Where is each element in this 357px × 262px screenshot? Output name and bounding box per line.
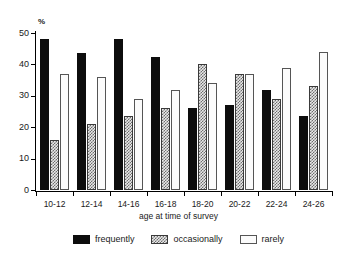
bar-group: [147, 33, 184, 190]
bar-occasionally: [50, 140, 59, 190]
plot-area: [36, 33, 332, 190]
y-axis-tick-label: 0: [3, 186, 29, 195]
bar-group: [73, 33, 110, 190]
x-axis-tick: [110, 192, 111, 196]
bar-rarely: [60, 74, 69, 190]
x-axis-tick-label: 22-24: [257, 199, 297, 209]
y-axis-labels: 01020304050: [0, 0, 29, 262]
x-axis-tick: [36, 192, 37, 196]
x-axis-tick-label: 24-26: [294, 199, 334, 209]
x-axis-tick: [221, 192, 222, 196]
y-axis-unit-label: %: [38, 18, 45, 26]
bar-occasionally: [309, 86, 318, 190]
x-axis-tick: [73, 192, 74, 196]
legend-label: occasionally: [173, 234, 222, 244]
bar-group: [110, 33, 147, 190]
bar-frequently: [188, 108, 197, 190]
y-axis-tick-label: 30: [3, 91, 29, 100]
y-axis-tick: [31, 190, 36, 191]
x-axis-tick-label: 20-22: [220, 199, 260, 209]
bar-rarely: [245, 74, 254, 190]
bar-rarely: [134, 99, 143, 190]
bar-occasionally: [161, 108, 170, 190]
x-axis-tick-label: 10-12: [35, 199, 75, 209]
x-axis-tick: [147, 192, 148, 196]
bar-frequently: [299, 116, 308, 190]
bar-frequently: [151, 57, 160, 190]
bar-group: [258, 33, 295, 190]
bar-occasionally: [272, 99, 281, 190]
y-axis-tick-label: 50: [3, 29, 29, 38]
bar-group: [36, 33, 73, 190]
legend-swatch-frequently: [73, 235, 90, 244]
legend-swatch-rarely: [240, 235, 257, 244]
legend-label: rarely: [262, 234, 285, 244]
x-axis-tick-label: 16-18: [146, 199, 186, 209]
x-axis-tick: [184, 192, 185, 196]
bar-occasionally: [87, 124, 96, 190]
bar-rarely: [97, 77, 106, 190]
y-axis-tick-label: 10: [3, 154, 29, 163]
y-axis-tick-label: 20: [3, 123, 29, 132]
bar-occasionally: [198, 64, 207, 190]
bar-rarely: [171, 90, 180, 190]
bar-occasionally: [235, 74, 244, 190]
bar-frequently: [40, 39, 49, 190]
bar-frequently: [77, 53, 86, 190]
bar-chart: % 01020304050 10-1212-1414-1616-1818-202…: [0, 0, 357, 262]
legend-item: rarely: [240, 234, 285, 244]
legend-swatch-occasionally: [151, 235, 168, 244]
bar-rarely: [282, 68, 291, 190]
bar-frequently: [262, 90, 271, 190]
legend-label: frequently: [95, 234, 135, 244]
bar-group: [295, 33, 332, 190]
bar-group: [221, 33, 258, 190]
x-axis-title: age at time of survey: [0, 211, 357, 221]
legend-item: occasionally: [151, 234, 222, 244]
legend-item: frequently: [73, 234, 135, 244]
x-axis-tick-label: 12-14: [72, 199, 112, 209]
x-axis-tick: [258, 192, 259, 196]
bar-rarely: [208, 83, 217, 190]
x-axis-tick: [295, 192, 296, 196]
bar-frequently: [225, 105, 234, 190]
x-axis-tick-label: 14-16: [109, 199, 149, 209]
bar-occasionally: [124, 116, 133, 190]
bar-rarely: [319, 52, 328, 190]
y-axis-tick-label: 40: [3, 60, 29, 69]
bar-group: [184, 33, 221, 190]
chart-legend: frequentlyoccasionallyrarely: [0, 234, 357, 244]
bar-frequently: [114, 39, 123, 190]
x-axis-tick-label: 18-20: [183, 199, 223, 209]
x-axis-tick: [332, 192, 333, 196]
